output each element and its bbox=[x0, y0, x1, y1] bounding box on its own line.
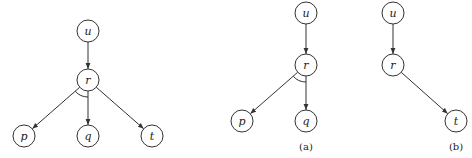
node-label: q bbox=[84, 130, 91, 143]
node-label: p bbox=[20, 130, 27, 143]
node-t: t bbox=[445, 110, 467, 132]
node-label: u bbox=[302, 7, 309, 20]
node-p: p bbox=[13, 125, 35, 147]
node-u: u bbox=[382, 2, 404, 24]
node-r: r bbox=[382, 54, 404, 76]
node-q: q bbox=[77, 125, 99, 147]
node-label: u bbox=[389, 7, 396, 20]
and-or-graph-figure: urpqturpqurt (a)(b) bbox=[0, 0, 472, 158]
node-label: p bbox=[238, 115, 245, 128]
caption-a: (a) bbox=[299, 141, 313, 152]
edge-r-p bbox=[32, 87, 79, 129]
node-label: t bbox=[150, 130, 155, 143]
node-label: t bbox=[454, 115, 459, 128]
edge-r-p bbox=[250, 72, 297, 114]
node-label: r bbox=[390, 59, 396, 72]
caption-b: (b) bbox=[449, 141, 463, 152]
node-p: p bbox=[231, 110, 253, 132]
edge-r-t bbox=[96, 87, 143, 129]
node-r: r bbox=[77, 69, 99, 91]
node-u: u bbox=[77, 20, 99, 42]
node-q: q bbox=[295, 110, 317, 132]
node-label: r bbox=[85, 74, 91, 87]
graph-svg: urpqturpqurt (a)(b) bbox=[0, 0, 472, 158]
node-r: r bbox=[295, 54, 317, 76]
node-t: t bbox=[141, 125, 163, 147]
node-label: r bbox=[303, 59, 309, 72]
and-arc bbox=[293, 76, 306, 82]
and-arc bbox=[75, 91, 88, 97]
node-label: u bbox=[84, 25, 91, 38]
edge-r-t bbox=[401, 72, 448, 113]
node-u: u bbox=[295, 2, 317, 24]
node-label: q bbox=[302, 115, 309, 128]
